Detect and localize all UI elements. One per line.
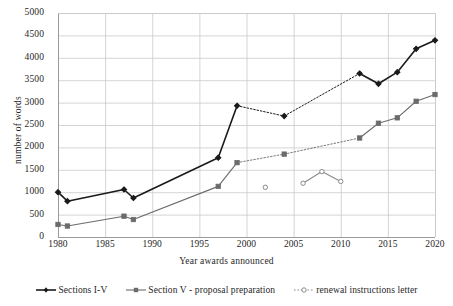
data-point-marker	[414, 99, 418, 103]
data-point-marker	[357, 136, 361, 140]
data-point-marker	[235, 160, 239, 164]
legend-label: Section V - proposal preparation	[148, 285, 275, 295]
data-point-marker	[339, 179, 343, 183]
x-axis-tick-label: 2020	[425, 240, 444, 250]
legend-marker-icon	[293, 285, 315, 295]
chart-legend: Sections I-VSection V - proposal prepara…	[0, 285, 453, 295]
data-point-marker	[131, 217, 135, 221]
legend-item-1[interactable]: Sections I-V	[35, 285, 107, 295]
data-point-marker	[395, 116, 399, 120]
legend-label: Sections I-V	[58, 285, 107, 295]
data-point-marker	[216, 184, 220, 188]
x-axis-tick-label: 2005	[284, 240, 303, 250]
x-axis-tick-label: 1990	[143, 240, 162, 250]
data-point-marker	[320, 169, 324, 173]
data-point-marker	[65, 224, 69, 228]
x-axis-tick-label: 2010	[331, 240, 350, 250]
x-axis-tick-label: 1985	[95, 240, 114, 250]
y-axis-tick-label: 2000	[25, 143, 44, 153]
y-axis-title: number of words	[13, 60, 23, 200]
data-point-marker	[56, 222, 60, 226]
y-axis-tick-label: 2500	[25, 120, 44, 130]
legend-item-3[interactable]: renewal instructions letter	[293, 285, 417, 295]
y-axis-tick-label: 1500	[25, 165, 44, 175]
y-axis-tick-label: 5000	[25, 8, 44, 18]
data-point-marker	[122, 214, 126, 218]
y-axis-tick-label: 1000	[25, 187, 44, 197]
data-point-marker	[376, 121, 380, 125]
data-point-marker	[433, 92, 437, 96]
y-axis-tick-label: 4000	[25, 53, 44, 63]
legend-marker-icon	[35, 285, 57, 295]
x-axis-tick-label: 2015	[378, 240, 397, 250]
y-axis-tick-label: 4500	[25, 31, 44, 41]
data-point-marker	[263, 185, 267, 189]
x-axis-tick-label: 2000	[237, 240, 256, 250]
data-point-marker	[301, 181, 305, 185]
line-chart: 0500100015002000250030003500400045005000…	[0, 0, 453, 306]
legend-label: renewal instructions letter	[316, 285, 417, 295]
legend-marker-icon	[125, 285, 147, 295]
x-axis-tick-label: 1995	[190, 240, 209, 250]
y-axis-tick-label: 500	[29, 210, 44, 220]
y-axis-tick-label: 3000	[25, 98, 44, 108]
y-axis-tick-label: 3500	[25, 75, 44, 85]
x-axis-title: Year awards announced	[0, 256, 453, 266]
data-point-marker	[282, 152, 286, 156]
y-axis-tick-label: 0	[39, 232, 44, 242]
x-axis-tick-label: 1980	[48, 240, 67, 250]
legend-item-2[interactable]: Section V - proposal preparation	[125, 285, 275, 295]
